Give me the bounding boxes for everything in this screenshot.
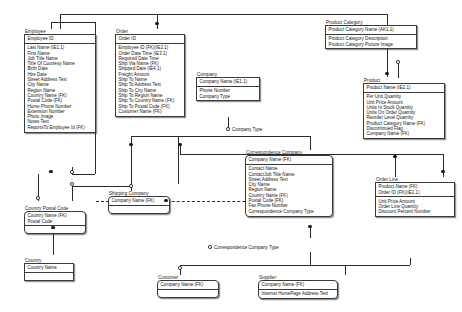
attribute-key: Company Name (FK) — [112, 198, 168, 203]
connector-employee-recursive-bottom — [72, 174, 95, 175]
entity-employee-attributes: Last Name (IE1.1) First Name Job Title N… — [25, 44, 95, 132]
entity-product-category-attributes: Product Category Description Product Cat… — [326, 35, 416, 48]
connector-order-employee-h — [60, 14, 157, 15]
attribute: Ship To Country Name (FK) — [119, 98, 183, 103]
entity-shipping-company[interactable]: Shipping Company Company Name (FK) — [108, 191, 170, 214]
connector-companytype-shipbranch — [131, 136, 178, 137]
connector-employee-recursive-left — [51, 22, 52, 29]
cardinality-dot-orderline-right — [441, 170, 444, 173]
cardinality-circle-customer — [178, 266, 182, 270]
cardinality-dot-order-bottom — [129, 143, 132, 146]
attribute-key: Company Name (FK) — [161, 282, 217, 287]
entity-order-line[interactable]: Order Line Product Name (FK) Order ID (F… — [375, 177, 455, 217]
attribute: Company Type — [200, 94, 258, 99]
entity-order-attributes: Employee ID (FK)(IE2.1) Order Date Time … — [116, 44, 184, 116]
connector-order-employee-down — [60, 14, 61, 29]
attribute-key: Order ID (FK)(IE1.1) — [379, 190, 453, 195]
connector-corr-subtype-stem — [310, 252, 311, 265]
entity-country-postal-code-body: Country Name (FK) Postal Code — [24, 211, 86, 234]
label-company-type: Company Type — [232, 127, 262, 132]
er-diagram-canvas: Company Type Correspondence Company Type… — [0, 0, 462, 312]
entity-supplier-keys: Company Name (FK) — [259, 281, 337, 290]
entity-correspondence-company[interactable]: Correspondence Company Company Name (FK)… — [245, 150, 333, 217]
connector-order-orderline-v1 — [180, 146, 181, 154]
attribute: ReportsTo Employee Id (FK) — [28, 125, 94, 130]
connector-companytype-bus2 — [228, 136, 310, 137]
entity-customer-keys: Company Name (FK) — [158, 281, 218, 290]
attribute: Company Name (FK) — [367, 131, 443, 136]
cardinality-dot-correspondence — [308, 225, 311, 228]
connector-corr-supplier — [345, 265, 346, 275]
entity-correspondence-company-attributes: Contact Name ContactJob Title Name Stree… — [246, 165, 332, 215]
attribute-key: Country Name — [28, 265, 72, 270]
entity-customer-body: Company Name (FK) — [157, 280, 219, 298]
entity-employee-body: Employee ID Last Name (IE1.1) First Name… — [24, 34, 96, 132]
entity-product-keys: Product Name (IE2.1) — [364, 84, 444, 93]
entity-customer[interactable]: Customer Company Name (FK) — [157, 275, 219, 298]
connector-company-corr — [310, 136, 311, 150]
connector-companytype-bus — [178, 136, 228, 137]
cardinality-circle-shipping — [129, 184, 133, 188]
entity-customer-attributes — [158, 290, 218, 297]
entity-correspondence-company-body: Company Name (FK) Contact Name ContactJo… — [245, 155, 333, 216]
entity-order-keys: Order ID — [116, 35, 184, 44]
entity-order-line-keys: Product Name (FK) Order ID (FK)(IE1.1) — [376, 183, 454, 197]
connector-employee-recursive-top — [51, 22, 95, 23]
connector-category-product — [398, 62, 399, 78]
connector-order-postalcode — [72, 186, 73, 201]
attribute-key: Company Name (FK) — [249, 157, 331, 162]
entity-product-category-body: Product Category Name (AK1.1) Product Ca… — [325, 25, 417, 49]
entity-country[interactable]: Country Country Name — [24, 258, 74, 281]
entity-company[interactable]: Company Company Name (IE1.1) Phone Numbe… — [196, 72, 260, 101]
cardinality-dot-order-bottom2 — [178, 143, 181, 146]
entity-product-category-keys: Product Category Name (AK1.1) — [326, 26, 416, 35]
cardinality-dot-product-bottom — [393, 155, 396, 158]
entity-supplier-attributes: Internet HomePage Address Text — [259, 290, 337, 298]
cardinality-circle-employee-postal — [36, 196, 40, 200]
entity-country-postal-code-keys: Country Name (FK) Postal Code — [25, 212, 85, 226]
entity-country-keys: Country Name — [25, 264, 73, 273]
entity-order[interactable]: Order Order ID Employee ID (FK)(IE2.1) O… — [115, 29, 185, 117]
connector-corr-down — [310, 228, 311, 238]
entity-country-attributes — [25, 273, 73, 280]
entity-supplier-body: Company Name (FK) Internet HomePage Addr… — [258, 280, 338, 299]
connector-order-postalcode-h — [72, 186, 131, 187]
entity-supplier[interactable]: Supplier Company Name (FK) Internet Home… — [258, 275, 338, 299]
attribute: Discount Percent Number — [379, 209, 453, 214]
attribute-key: Company Name (FK) — [262, 282, 336, 287]
entity-company-body: Company Name (IE1.1) Phone Number Compan… — [196, 77, 260, 101]
entity-order-line-body: Product Name (FK) Order ID (FK)(IE1.1) U… — [375, 182, 455, 217]
connector-top-bus — [157, 14, 387, 15]
cardinality-dot-employee-recursive — [49, 170, 52, 173]
entity-correspondence-company-keys: Company Name (FK) — [246, 156, 332, 165]
attribute-key: Product Category Name (AK1.1) — [329, 27, 415, 32]
entity-shipping-company-attributes — [109, 206, 169, 213]
attribute-key: Postal Code — [28, 219, 84, 224]
connector-corr-subtype-bus — [180, 265, 410, 266]
entity-product-body: Product Name (IE2.1) Per Unit Quantity U… — [363, 83, 445, 139]
attribute-key: Company Name (IE1.1) — [200, 79, 258, 84]
attribute-key: Employee ID — [28, 36, 94, 41]
connector-order-orderline-v2 — [443, 154, 444, 177]
cardinality-dot-order-top — [155, 22, 158, 25]
entity-shipping-company-body: Company Name (FK) — [108, 196, 170, 214]
company-type-optional-marker — [226, 127, 230, 131]
cardinality-circle-employee-recursive — [70, 170, 74, 174]
cardinality-circle-order-postal — [70, 182, 74, 186]
entity-company-attributes: Phone Number Company Type — [197, 87, 259, 100]
entity-country-postal-code-attributes — [25, 226, 85, 233]
entity-company-keys: Company Name (IE1.1) — [197, 78, 259, 87]
entity-order-line-attributes: Unit Price Amount Order Line Quantity Di… — [376, 197, 454, 216]
label-correspondence-company-type: Correspondence Company Type — [214, 245, 279, 250]
entity-employee[interactable]: Employee Employee ID Last Name (IE1.1) F… — [24, 29, 96, 133]
attribute: Correspondence Company Type — [249, 209, 331, 214]
entity-country-body: Country Name — [24, 263, 74, 281]
cardinality-dot-product-top — [385, 72, 388, 75]
attribute-key: Order ID — [119, 36, 183, 41]
attribute: Customer Name (FK) — [119, 109, 183, 114]
entity-country-postal-code[interactable]: Country Postal Code Country Name (FK) Po… — [24, 206, 86, 234]
attribute: Product Category Picture Image — [329, 42, 415, 47]
connector-product-orderline — [395, 157, 396, 177]
entity-product[interactable]: Product Product Name (IE2.1) Per Unit Qu… — [363, 78, 445, 139]
entity-product-category[interactable]: Product Category Product Category Name (… — [325, 20, 417, 49]
